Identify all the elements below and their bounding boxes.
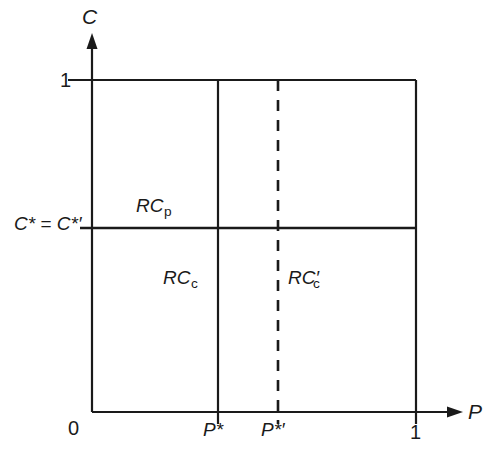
c-star-prime-text: C*′ <box>57 213 82 234</box>
rc-c-prime-base: RC <box>288 267 315 288</box>
rc-c-subscript: c <box>191 276 198 291</box>
x-tick-one: 1 <box>410 422 421 442</box>
y-tick-c-star-equals-c-star-prime: C* = C*′ <box>14 214 81 233</box>
y-tick-one: 1 <box>60 70 71 90</box>
x-tick-zero: 0 <box>68 418 79 438</box>
y-axis-arrowhead <box>87 33 98 49</box>
rc-p-base: RC <box>136 195 163 216</box>
region-label-rc-c: RCc <box>163 268 198 291</box>
c-star-text: C* <box>14 213 35 234</box>
region-label-rc-c-prime: RC′c <box>288 268 320 291</box>
diagram-canvas: C P 1 0 1 P* P*′ C* = C*′ RCp RCc RC′c <box>0 0 486 455</box>
rc-c-prime-subscript: c <box>313 276 320 291</box>
region-label-rc-p: RCp <box>136 196 172 219</box>
rc-c-base: RC <box>163 267 190 288</box>
x-tick-p-star-prime: P*′ <box>261 420 285 439</box>
x-tick-p-star: P* <box>203 420 223 439</box>
rc-p-subscript: p <box>164 204 172 219</box>
equals-sign: = <box>35 213 57 234</box>
y-axis-group <box>87 33 98 412</box>
x-axis-label: P <box>468 401 482 422</box>
y-axis-label: C <box>82 6 97 27</box>
x-axis-arrowhead <box>447 407 463 418</box>
